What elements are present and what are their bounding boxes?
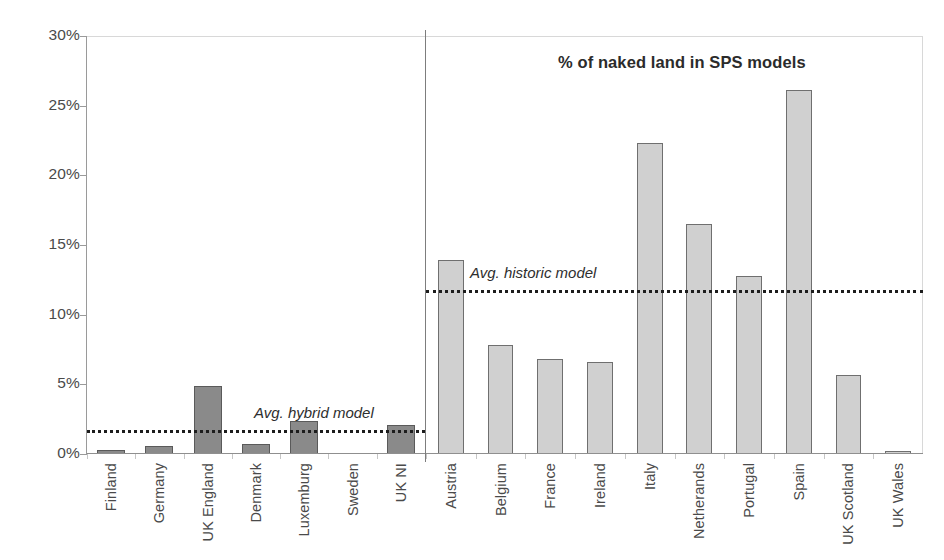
bar-slot xyxy=(774,36,824,454)
category-tick xyxy=(87,454,88,459)
bar-slot xyxy=(377,36,425,454)
bar-france[interactable] xyxy=(537,359,563,454)
x-label-austria: Austria xyxy=(443,463,459,509)
x-label-slot: Finland xyxy=(87,461,135,556)
y-tick-10: 10% xyxy=(0,315,96,316)
y-tick-mark xyxy=(80,245,87,246)
x-label-uk-scotland: UK Scotland xyxy=(840,463,856,545)
historic-bars-group xyxy=(426,36,923,454)
category-tick xyxy=(476,454,477,459)
x-label-italy: Italy xyxy=(642,463,658,490)
category-tick xyxy=(184,454,185,459)
hybrid-category-labels: FinlandGermanyUK EnglandDenmarkLuxemburg… xyxy=(87,461,425,556)
y-tick-30: 30% xyxy=(0,36,96,37)
x-label-slot: Ireland xyxy=(575,461,625,556)
y-tick-15: 15% xyxy=(0,245,96,246)
reference-line-label-hybrid: Avg. hybrid model xyxy=(254,404,374,421)
category-tick xyxy=(774,454,775,459)
x-label-slot: UK Wales xyxy=(873,461,923,556)
y-tick-label: 0% xyxy=(57,444,80,462)
category-tick xyxy=(824,454,825,459)
x-label-slot: UK Scotland xyxy=(824,461,874,556)
category-tick xyxy=(724,454,725,459)
bar-slot xyxy=(280,36,328,454)
x-label-slot: UK NI xyxy=(377,461,425,556)
x-label-sweden: Sweden xyxy=(345,463,361,516)
bar-netherands[interactable] xyxy=(686,224,712,454)
category-tick xyxy=(232,454,233,459)
x-label-slot: France xyxy=(525,461,575,556)
y-tick-label: 30% xyxy=(48,26,80,44)
category-tick xyxy=(525,454,526,459)
x-label-slot: Spain xyxy=(774,461,824,556)
category-tick xyxy=(675,454,676,459)
x-label-netherands: Netherands xyxy=(691,463,707,539)
y-tick-mark xyxy=(80,106,87,107)
x-label-slot: Germany xyxy=(135,461,183,556)
x-label-spain: Spain xyxy=(791,463,807,501)
x-label-slot: Netherands xyxy=(675,461,725,556)
x-label-uk-ni: UK NI xyxy=(393,463,409,502)
x-label-slot: Belgium xyxy=(476,461,526,556)
bar-uk-ni[interactable] xyxy=(387,425,415,454)
y-tick-label: 25% xyxy=(48,96,80,114)
bar-slot xyxy=(675,36,725,454)
x-label-finland: Finland xyxy=(103,463,119,511)
historic-category-labels: AustriaBelgiumFranceIrelandItalyNetheran… xyxy=(426,461,923,556)
bar-uk-england[interactable] xyxy=(194,386,222,454)
x-label-luxemburg: Luxemburg xyxy=(296,463,312,536)
bar-belgium[interactable] xyxy=(488,345,514,454)
bar-uk-scotland[interactable] xyxy=(836,375,862,454)
bar-slot xyxy=(328,36,376,454)
x-axis-baseline-right xyxy=(426,453,923,454)
category-tick xyxy=(625,454,626,459)
bar-slot xyxy=(625,36,675,454)
y-tick-label: 15% xyxy=(48,235,80,253)
y-tick-mark xyxy=(80,454,87,455)
category-tick xyxy=(377,454,378,459)
x-label-portugal: Portugal xyxy=(741,463,757,518)
x-label-slot: Denmark xyxy=(232,461,280,556)
x-label-germany: Germany xyxy=(151,463,167,523)
historic-models-panel xyxy=(426,36,923,454)
bar-spain[interactable] xyxy=(786,90,812,454)
y-tick-5: 5% xyxy=(0,384,96,385)
bar-italy[interactable] xyxy=(637,143,663,454)
x-label-slot: Italy xyxy=(625,461,675,556)
y-tick-20: 20% xyxy=(0,175,96,176)
x-label-slot: Luxemburg xyxy=(280,461,328,556)
bar-slot xyxy=(724,36,774,454)
bar-slot xyxy=(184,36,232,454)
bar-portugal[interactable] xyxy=(736,276,762,454)
x-label-france: France xyxy=(542,463,558,509)
x-label-slot: Sweden xyxy=(328,461,376,556)
bar-chart: 30%25%20%15%10%5%0% Avg. hybrid modelAvg… xyxy=(0,0,944,560)
hybrid-models-panel xyxy=(87,36,425,454)
y-tick-label: 10% xyxy=(48,305,80,323)
x-label-uk-wales: UK Wales xyxy=(890,463,906,528)
bar-slot xyxy=(232,36,280,454)
y-tick-mark xyxy=(80,175,87,176)
x-label-slot: UK England xyxy=(184,461,232,556)
category-tick xyxy=(135,454,136,459)
x-label-slot: Portugal xyxy=(724,461,774,556)
hybrid-bars-group xyxy=(87,36,425,454)
category-tick xyxy=(575,454,576,459)
bar-slot xyxy=(575,36,625,454)
y-tick-mark xyxy=(80,384,87,385)
bar-slot xyxy=(87,36,135,454)
y-tick-label: 5% xyxy=(57,374,80,392)
bar-luxemburg[interactable] xyxy=(290,421,318,454)
category-tick xyxy=(328,454,329,459)
bar-slot xyxy=(135,36,183,454)
y-tick-mark xyxy=(80,36,87,37)
chart-title: % of naked land in SPS models xyxy=(558,53,806,72)
reference-line-label-historic: Avg. historic model xyxy=(470,264,596,281)
bar-slot xyxy=(873,36,923,454)
x-label-ireland: Ireland xyxy=(592,463,608,508)
reference-line-hybrid xyxy=(87,430,425,433)
bar-slot xyxy=(525,36,575,454)
category-tick xyxy=(280,454,281,459)
bar-ireland[interactable] xyxy=(587,362,613,454)
bar-slot xyxy=(824,36,874,454)
